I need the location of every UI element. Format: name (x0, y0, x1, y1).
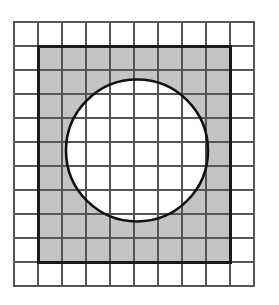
figure-container (0, 0, 279, 305)
geometry-figure (0, 0, 279, 305)
